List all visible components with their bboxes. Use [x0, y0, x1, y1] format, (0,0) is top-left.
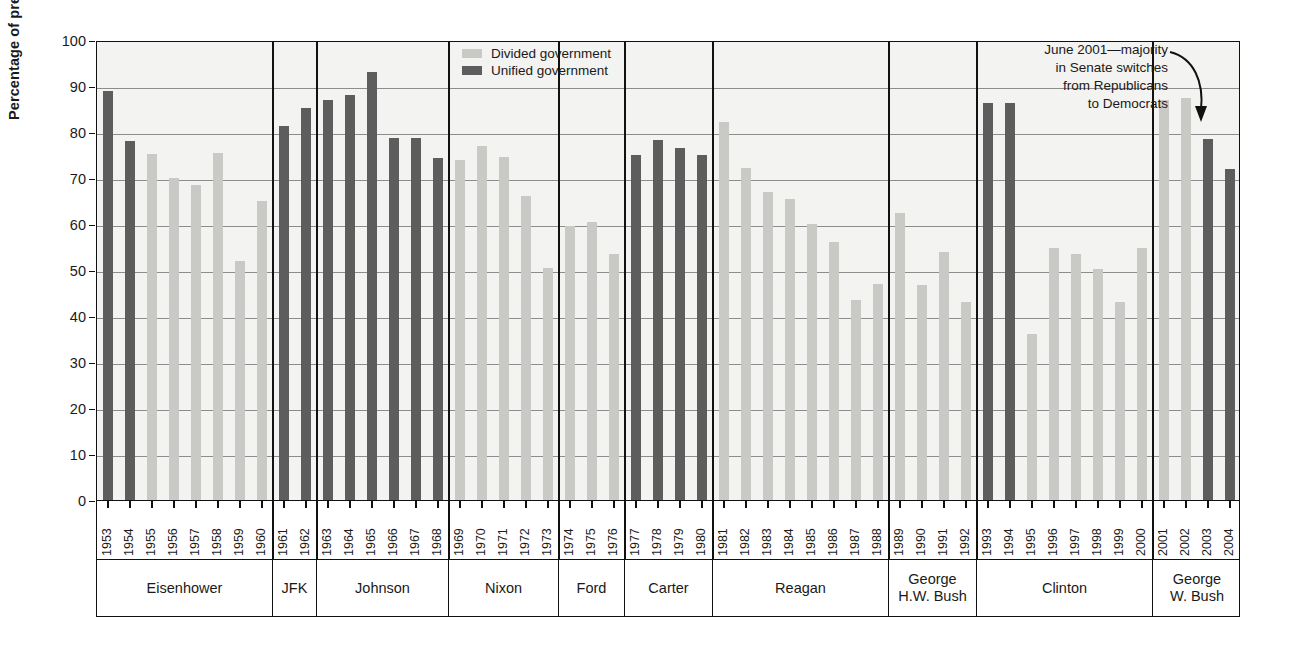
year-label-1969: 1969	[452, 528, 466, 556]
x-tick-mark	[503, 501, 505, 508]
bar-1966	[389, 138, 399, 500]
year-label-1997: 1997	[1068, 528, 1082, 556]
bar-1973	[543, 268, 553, 500]
bar-1954	[125, 141, 135, 500]
year-label-2000: 2000	[1134, 528, 1148, 556]
year-label-1982: 1982	[738, 528, 752, 556]
bar-1993	[983, 103, 993, 500]
x-tick-mark	[437, 501, 439, 508]
year-label-1973: 1973	[540, 528, 554, 556]
year-strip-separator	[712, 501, 714, 559]
year-label-1972: 1972	[518, 528, 532, 556]
bar-1967	[411, 138, 421, 500]
president-name: JFK	[282, 580, 308, 597]
x-tick-mark	[239, 501, 241, 508]
x-tick-mark	[877, 501, 879, 508]
legend-swatch-divided	[462, 49, 482, 58]
year-label-1999: 1999	[1112, 528, 1126, 556]
bar-1992	[961, 302, 971, 500]
year-label-1974: 1974	[562, 528, 576, 556]
x-tick-mark	[789, 501, 791, 508]
x-tick-mark	[393, 501, 395, 508]
year-strip-separator	[624, 501, 626, 559]
y-tick-mark	[89, 179, 95, 180]
president-name: Carter	[648, 580, 688, 597]
year-label-1964: 1964	[342, 528, 356, 556]
chart-figure: Percentage of presidents' bills passed 0…	[0, 0, 1295, 646]
bar-1982	[741, 168, 751, 500]
year-label-2003: 2003	[1200, 528, 1214, 556]
year-label-2002: 2002	[1178, 528, 1192, 556]
x-tick-mark	[459, 501, 461, 508]
year-label-1975: 1975	[584, 528, 598, 556]
bar-1995	[1027, 334, 1037, 500]
legend-item-unified: Unified government	[462, 63, 611, 78]
year-label-1955: 1955	[144, 528, 158, 556]
president-cell-johnson: Johnson	[317, 560, 449, 616]
year-label-1998: 1998	[1090, 528, 1104, 556]
x-tick-mark	[107, 501, 109, 508]
x-tick-mark	[1207, 501, 1209, 508]
x-tick-mark	[921, 501, 923, 508]
year-label-1958: 1958	[210, 528, 224, 556]
x-tick-mark	[261, 501, 263, 508]
year-strip-separator	[558, 501, 560, 559]
bar-1971	[499, 157, 509, 500]
annotation-line: to Democrats	[963, 95, 1168, 113]
year-label-1995: 1995	[1024, 528, 1038, 556]
legend-item-divided: Divided government	[462, 46, 611, 61]
bar-1959	[235, 261, 245, 500]
y-tick-label: 0	[40, 493, 86, 509]
year-label-1988: 1988	[870, 528, 884, 556]
y-tick-label: 60	[40, 217, 86, 233]
year-label-1953: 1953	[100, 528, 114, 556]
president-separator	[888, 42, 890, 500]
bar-1981	[719, 122, 729, 500]
year-label-2004: 2004	[1222, 528, 1236, 556]
year-label-1961: 1961	[276, 528, 290, 556]
president-cell-reagan: Reagan	[713, 560, 889, 616]
year-label-1968: 1968	[430, 528, 444, 556]
president-name: Clinton	[1042, 580, 1087, 597]
bar-1955	[147, 154, 157, 500]
x-tick-mark	[1075, 501, 1077, 508]
x-tick-mark	[767, 501, 769, 508]
president-cell-georgewbush: GeorgeW. Bush	[1153, 560, 1241, 616]
bar-2002	[1181, 98, 1191, 501]
president-cell-clinton: Clinton	[977, 560, 1153, 616]
x-tick-mark	[613, 501, 615, 508]
y-tick-mark	[89, 271, 95, 272]
x-tick-mark	[701, 501, 703, 508]
year-label-1993: 1993	[980, 528, 994, 556]
y-axis-title: Percentage of presidents' bills passed	[6, 0, 22, 120]
x-tick-mark	[987, 501, 989, 508]
bar-1988	[873, 284, 883, 500]
x-tick-mark	[349, 501, 351, 508]
x-tick-mark	[679, 501, 681, 508]
y-tick-mark	[89, 317, 95, 318]
president-name: Nixon	[485, 580, 522, 597]
x-tick-mark	[151, 501, 153, 508]
year-label-1957: 1957	[188, 528, 202, 556]
bar-1989	[895, 213, 905, 501]
year-label-1965: 1965	[364, 528, 378, 556]
year-label-1992: 1992	[958, 528, 972, 556]
y-tick-mark	[89, 455, 95, 456]
bar-1976	[609, 254, 619, 500]
annotation-text: June 2001—majorityin Senate switchesfrom…	[963, 41, 1168, 113]
year-axis-strip: 1953195419551956195719581959196019611962…	[96, 501, 1240, 559]
bar-1985	[807, 224, 817, 500]
y-tick-mark	[89, 363, 95, 364]
year-label-1986: 1986	[826, 528, 840, 556]
bar-1964	[345, 95, 355, 500]
x-tick-mark	[943, 501, 945, 508]
bar-2000	[1137, 248, 1147, 500]
y-tick-label: 100	[40, 33, 86, 49]
x-tick-mark	[525, 501, 527, 508]
bar-1983	[763, 192, 773, 500]
president-separator	[712, 42, 714, 500]
year-label-1981: 1981	[716, 528, 730, 556]
year-label-1980: 1980	[694, 528, 708, 556]
legend-label-unified: Unified government	[491, 63, 608, 78]
bar-2001	[1159, 100, 1169, 500]
